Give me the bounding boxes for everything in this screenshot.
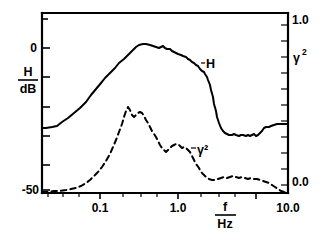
y-axis-label-left: H dB <box>18 65 38 96</box>
x-axis-label-denominator: Hz <box>217 217 232 231</box>
y-axis-label-right-exponent: 2 <box>302 47 307 57</box>
annotation-gamma: γ² <box>191 143 208 157</box>
figure-container: 0 -50 H dB 1.0 0.0 γ 2 0.1 1.0 10.0 f Hz… <box>0 0 320 236</box>
series-h-curve <box>42 44 288 136</box>
annotation-h: H <box>201 57 215 71</box>
x-axis-label: f Hz <box>215 200 236 231</box>
ytick-label-left-minus50: -50 <box>22 183 40 197</box>
xtick-label-10-0: 10.0 <box>276 201 300 215</box>
xtick-label-0-1: 0.1 <box>92 201 109 215</box>
y-axis-label-left-denominator: dB <box>20 82 37 96</box>
x-axis-label-numerator: f <box>223 200 228 214</box>
left-axis-ticks <box>42 19 50 190</box>
ytick-label-right-0: 0.0 <box>292 175 309 189</box>
y-axis-label-left-numerator: H <box>23 65 32 79</box>
ytick-label-left-0: 0 <box>30 41 37 55</box>
plot-frame <box>42 13 288 193</box>
y-axis-label-right: γ 2 <box>293 47 307 65</box>
y-axis-label-right-base: γ <box>293 51 300 65</box>
annotation-h-label: H <box>206 57 215 71</box>
ytick-label-right-1: 1.0 <box>292 13 309 27</box>
series-gamma-curve <box>42 107 288 193</box>
transfer-function-coherence-chart: 0 -50 H dB 1.0 0.0 γ 2 0.1 1.0 10.0 f Hz… <box>0 0 320 236</box>
xtick-label-1-0: 1.0 <box>170 201 187 215</box>
annotation-gamma-label: γ² <box>197 143 208 157</box>
